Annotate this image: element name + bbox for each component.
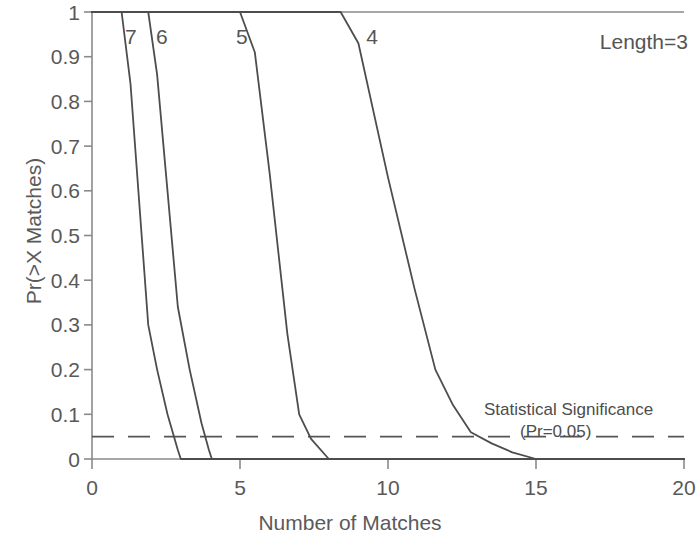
axis-lines xyxy=(92,12,684,459)
chart-figure: 1 0.9 0.8 0.7 0.6 0.5 0.4 0.3 0.2 0.1 0 … xyxy=(0,0,700,543)
length-annotation: Length=3 xyxy=(600,30,688,54)
curve-label-4: 4 xyxy=(366,26,378,47)
curve-7 xyxy=(92,12,684,459)
x-tick-label: 5 xyxy=(220,477,260,498)
y-axis-title: Pr(>X Matches) xyxy=(22,158,45,304)
data-curves xyxy=(92,12,684,459)
y-tick-label: 0.2 xyxy=(28,359,80,380)
x-tick-label: 0 xyxy=(72,477,112,498)
curve-4 xyxy=(92,12,684,459)
curve-5 xyxy=(92,12,684,459)
curve-label-7: 7 xyxy=(125,26,137,47)
x-axis-title: Number of Matches xyxy=(0,512,700,533)
plot-canvas xyxy=(0,0,700,543)
curve-6 xyxy=(92,12,684,459)
y-tick-marks xyxy=(84,12,92,459)
y-tick-label: 0.1 xyxy=(28,404,80,425)
x-tick-marks xyxy=(92,459,684,469)
curve-label-6: 6 xyxy=(156,26,168,47)
y-tick-label: 0 xyxy=(52,449,80,470)
curve-label-5: 5 xyxy=(236,26,248,47)
x-tick-label: 10 xyxy=(368,477,408,498)
significance-label-line1: Statistical Significance xyxy=(484,400,653,420)
x-tick-label: 20 xyxy=(664,477,700,498)
significance-label-line2: (Pr=0.05) xyxy=(520,422,591,442)
x-tick-label: 15 xyxy=(516,477,556,498)
y-tick-label: 0.9 xyxy=(28,46,80,67)
y-tick-label: 1 xyxy=(52,2,80,23)
y-axis-title-wrapper: Pr(>X Matches) xyxy=(23,101,45,361)
